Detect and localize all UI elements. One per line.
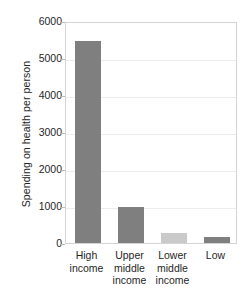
bar <box>118 207 144 243</box>
x-axis-tick-label-line: Lower <box>151 249 194 262</box>
bar-chart-figure: Spending on health per person 0100020003… <box>0 0 252 301</box>
x-axis-tick-label-line: middle <box>151 262 194 275</box>
x-axis-tick-label-line: income <box>151 274 194 287</box>
x-axis-tick-label-line: income <box>108 274 151 287</box>
y-axis-tick-labels: 0100020003000400050006000 <box>26 0 62 301</box>
x-axis-tick-label-line: Low <box>194 249 237 262</box>
y-axis-tick-label: 5000 <box>26 53 62 64</box>
x-axis-tick-label: Uppermiddleincome <box>108 249 151 287</box>
y-axis-tick-label: 3000 <box>26 127 62 138</box>
bar <box>161 233 187 243</box>
x-axis-tick-label-line: Upper <box>108 249 151 262</box>
y-axis-tick-mark <box>61 244 65 245</box>
x-axis-tick-label: Lowermiddleincome <box>151 249 194 287</box>
y-axis-tick-label: 0 <box>26 238 62 249</box>
x-axis-tick-labels: HighincomeUppermiddleincomeLowermiddlein… <box>65 249 237 297</box>
y-axis-tick-label: 4000 <box>26 90 62 101</box>
bar <box>75 41 101 243</box>
x-axis-tick-label: Highincome <box>65 249 108 274</box>
x-axis-tick-label: Low <box>194 249 237 262</box>
bar <box>204 237 230 243</box>
x-axis-tick-label-line: High <box>65 249 108 262</box>
y-axis-tick-label: 6000 <box>26 16 62 27</box>
x-axis-tick-label-line: middle <box>108 262 151 275</box>
plot-area <box>65 22 237 244</box>
y-axis-tick-label: 1000 <box>26 201 62 212</box>
x-axis-tick-label-line: income <box>65 262 108 275</box>
y-axis-tick-label: 2000 <box>26 164 62 175</box>
